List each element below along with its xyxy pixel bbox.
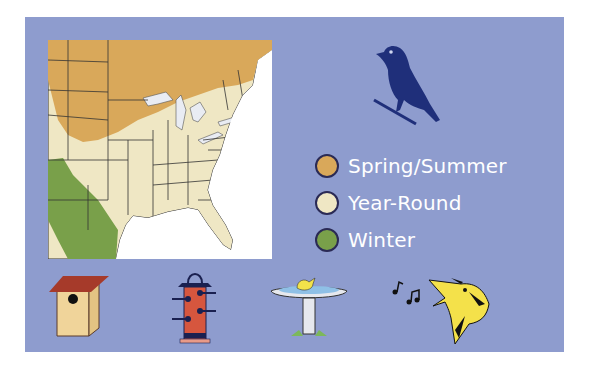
- legend-label: Year-Round: [348, 191, 462, 215]
- legend: Spring/Summer Year-Round Winter: [315, 147, 507, 258]
- birdbath-icon: [269, 274, 349, 344]
- birdhouse-icon: [47, 270, 117, 338]
- legend-label: Spring/Summer: [348, 154, 507, 178]
- eastern-us-map: [48, 40, 272, 259]
- range-map-panel: Spring/Summer Year-Round Winter: [25, 17, 564, 352]
- bluebird-silhouette-icon: [370, 42, 450, 132]
- bird-feeder-icon: [170, 267, 220, 347]
- winter-swatch-icon: [315, 228, 339, 252]
- legend-item-spring-summer: Spring/Summer: [315, 147, 507, 184]
- spring-summer-swatch-icon: [315, 154, 339, 178]
- range-map: [48, 40, 272, 259]
- legend-item-winter: Winter: [315, 221, 507, 258]
- year-round-swatch-icon: [315, 191, 339, 215]
- music-notes-icon: [393, 282, 420, 305]
- legend-label: Winter: [348, 228, 415, 252]
- singing-bird-icon: [389, 272, 509, 344]
- legend-item-year-round: Year-Round: [315, 184, 507, 221]
